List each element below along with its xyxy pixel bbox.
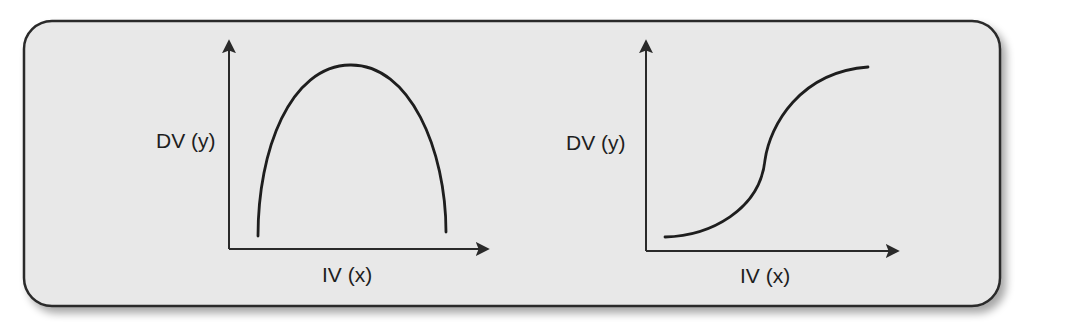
panel-background (24, 21, 1000, 306)
diagram-stage: DV (y) IV (x) DV (y) IV (x) (0, 0, 1068, 332)
y-axis-label: DV (y) (156, 129, 216, 152)
x-axis-label: IV (x) (322, 263, 372, 286)
x-axis-label: IV (x) (740, 264, 790, 287)
y-axis-label: DV (y) (566, 131, 626, 154)
